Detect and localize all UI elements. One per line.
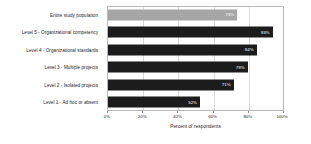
x-axis: 0% 20% 40% 60% 80% 100% [107, 111, 284, 123]
bar-level-2[interactable]: 71% [108, 79, 234, 90]
category-label: Level 5 - Organizational competency [22, 30, 98, 35]
category-label: Level 2 - Isolated projects [44, 82, 98, 87]
x-tick-label-20: 20% [138, 114, 147, 119]
table-row: Level 2 - Isolated projects 71% [0, 76, 311, 94]
bar-level-4[interactable]: 84% [108, 44, 257, 55]
category-label: Entire study population [50, 12, 98, 17]
tick-mark-100 [283, 111, 284, 113]
bar-level-5[interactable]: 93% [108, 27, 273, 38]
bar-level-3[interactable]: 79% [108, 62, 248, 73]
category-label: Level 3 - Multiple projects [45, 65, 98, 70]
bar-entire-study-population[interactable]: 73% [108, 9, 237, 20]
x-axis-title: Percent of respondents [107, 124, 284, 129]
x-tick-label-0: 0% [104, 114, 110, 119]
bar-value-label: 73% [225, 12, 234, 17]
tick-mark-60 [213, 111, 214, 113]
tick-mark-80 [248, 111, 249, 113]
tick-mark-20 [142, 111, 143, 113]
x-tick-label-60: 60% [208, 114, 217, 119]
table-row: Level 4 - Organizational standards 84% [0, 41, 311, 59]
bar-chart: Entire study population 73% Level 5 - Or… [0, 0, 311, 144]
x-tick-label-80: 80% [243, 114, 252, 119]
bar-value-label: 79% [236, 65, 245, 70]
category-label: Level 4 - Organizational standards [26, 47, 98, 52]
tick-mark-0 [107, 111, 108, 113]
bar-value-label: 84% [245, 47, 254, 52]
x-tick-label-40: 40% [173, 114, 182, 119]
table-row: Level 1 - Ad hoc or absent 52% [0, 94, 311, 112]
table-row: Level 5 - Organizational competency 93% [0, 24, 311, 42]
bar-level-1[interactable]: 52% [108, 97, 200, 108]
category-label: Level 1 - Ad hoc or absent [43, 100, 98, 105]
table-row: Entire study population 73% [0, 6, 311, 24]
table-row: Level 3 - Multiple projects 79% [0, 59, 311, 77]
bar-value-label: 52% [188, 100, 197, 105]
bar-value-label: 93% [261, 30, 270, 35]
tick-mark-40 [177, 111, 178, 113]
x-tick-label-100: 100% [276, 114, 287, 119]
bar-value-label: 71% [222, 82, 231, 87]
bar-rows: Entire study population 73% Level 5 - Or… [0, 6, 311, 111]
